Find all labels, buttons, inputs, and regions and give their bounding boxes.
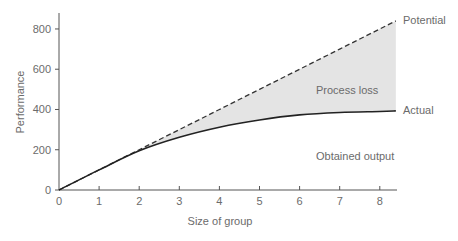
y-axis-ticks: 0200400600800 <box>33 23 59 196</box>
y-axis-label: Performance <box>14 71 26 134</box>
x-tick-label: 7 <box>337 195 343 207</box>
x-tick-label: 5 <box>256 195 262 207</box>
actual-label: Actual <box>403 104 434 116</box>
x-tick-label: 6 <box>297 195 303 207</box>
potential-label: Potential <box>403 14 446 26</box>
x-tick-label: 8 <box>377 195 383 207</box>
x-tick-label: 4 <box>216 195 222 207</box>
y-tick-label: 800 <box>33 23 51 35</box>
x-tick-label: 0 <box>56 195 62 207</box>
y-tick-label: 600 <box>33 63 51 75</box>
x-tick-label: 3 <box>176 195 182 207</box>
process-loss-label: Process loss <box>316 84 379 96</box>
x-tick-label: 1 <box>96 195 102 207</box>
obtained-output-label: Obtained output <box>316 150 394 162</box>
x-axis-ticks: 012345678 <box>56 186 383 207</box>
x-tick-label: 2 <box>136 195 142 207</box>
y-tick-label: 400 <box>33 103 51 115</box>
y-tick-label: 0 <box>45 184 51 196</box>
x-axis-label: Size of group <box>188 215 253 227</box>
y-tick-label: 200 <box>33 144 51 156</box>
group-performance-chart: 0200400600800 012345678 Performance Size… <box>0 0 458 241</box>
